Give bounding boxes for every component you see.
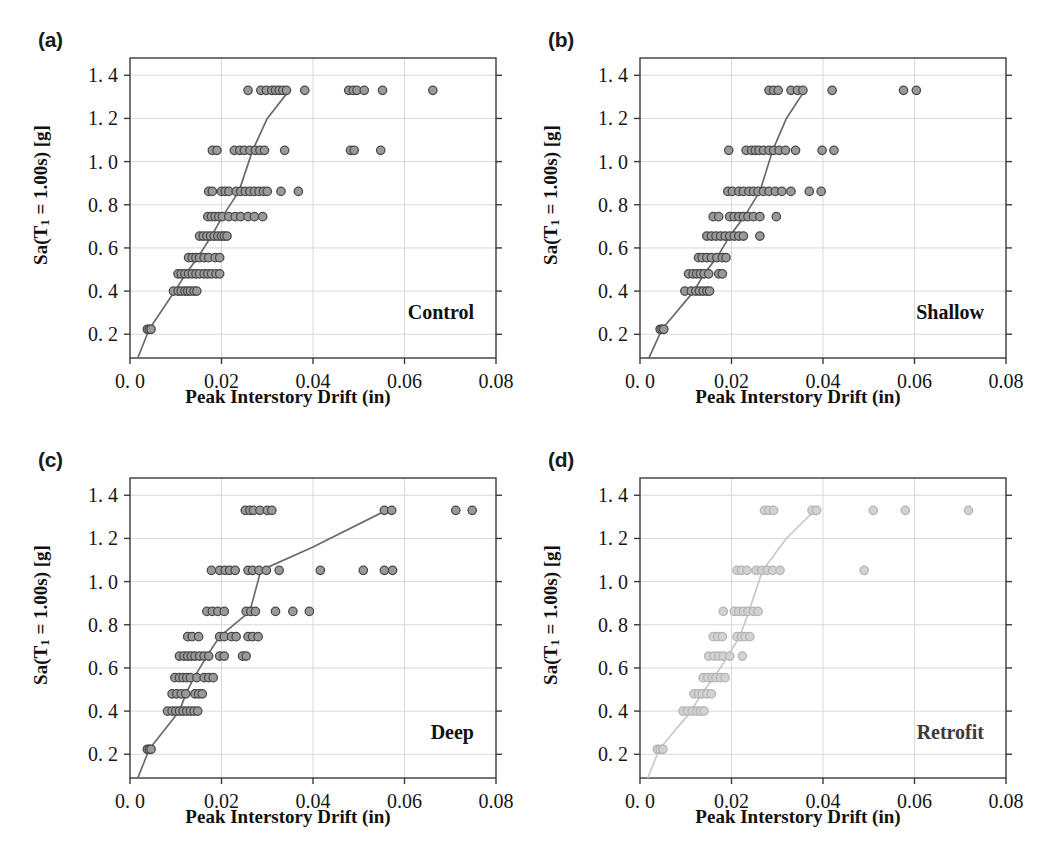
data-point [705, 287, 713, 295]
data-point [869, 506, 877, 514]
data-point [778, 187, 786, 195]
data-point [818, 146, 826, 154]
data-point [817, 187, 825, 195]
y-tick-label: 0. 4 [598, 280, 628, 302]
y-tick-label: 1. 0 [598, 571, 628, 593]
data-point [380, 566, 388, 574]
data-point [899, 86, 907, 94]
data-point [700, 707, 708, 715]
data-point [215, 253, 223, 261]
data-point [258, 212, 266, 220]
y-tick-label: 0. 4 [88, 700, 118, 722]
data-point [254, 632, 262, 640]
data-point [746, 632, 754, 640]
y-tick-label: 1. 2 [598, 527, 628, 549]
data-point [718, 270, 726, 278]
y-tick-label: 1. 0 [88, 571, 118, 593]
x-axis-title-b: Peak Interstory Drift (in) [588, 386, 1008, 408]
data-point [271, 607, 279, 615]
y-tick-label: 1. 4 [598, 64, 628, 86]
data-point [251, 607, 259, 615]
data-point [718, 632, 726, 640]
data-point [743, 566, 751, 574]
data-point [722, 253, 730, 261]
data-point [350, 146, 358, 154]
y-tick-label: 0. 2 [88, 743, 118, 765]
data-point [738, 652, 746, 660]
data-point [830, 146, 838, 154]
x-axis-title-a: Peak Interstory Drift (in) [78, 386, 498, 408]
data-point [215, 270, 223, 278]
data-point [756, 212, 764, 220]
data-point [289, 607, 297, 615]
data-point [739, 232, 747, 240]
y-tick-label: 0. 8 [598, 614, 628, 636]
data-point [263, 187, 271, 195]
data-point [719, 607, 727, 615]
data-point [901, 506, 909, 514]
y-tick-label: 0. 2 [598, 743, 628, 765]
data-point [244, 86, 252, 94]
data-point [282, 86, 290, 94]
case-label: Control [408, 301, 475, 323]
data-point [147, 325, 155, 333]
data-point [198, 690, 206, 698]
axis-ticks: 0. 20. 40. 60. 81. 01. 21. 40. 00.020.04… [598, 64, 1024, 392]
data-point [194, 632, 202, 640]
data-point [209, 673, 217, 681]
data-point [721, 673, 729, 681]
data-point [262, 566, 270, 574]
data-point [452, 506, 460, 514]
data-point [193, 287, 201, 295]
y-tick-label: 0. 6 [88, 237, 118, 259]
data-point [275, 566, 283, 574]
data-point [756, 232, 764, 240]
y-tick-label: 0. 8 [88, 614, 118, 636]
plot-area-b: 0. 20. 40. 60. 81. 01. 21. 40. 00.020.04… [528, 10, 1028, 430]
data-point [182, 690, 190, 698]
data-point [207, 566, 215, 574]
panel-a: (a) Sa(T1 = 1.00s) [g] 0. 20. 40. 60. 81… [18, 10, 518, 430]
scatter-points [653, 506, 973, 753]
y-tick-label: 1. 2 [88, 107, 118, 129]
y-tick-label: 0. 8 [598, 194, 628, 216]
data-point [660, 325, 668, 333]
y-tick-label: 1. 0 [598, 151, 628, 173]
data-point [860, 566, 868, 574]
data-point [378, 86, 386, 94]
data-point [707, 690, 715, 698]
case-label: Deep [431, 721, 474, 744]
data-point [769, 506, 777, 514]
data-point [194, 707, 202, 715]
data-point [360, 86, 368, 94]
x-axis-title-d: Peak Interstory Drift (in) [588, 806, 1008, 828]
plot-area-d: 0. 20. 40. 60. 81. 01. 21. 40. 00.020.04… [528, 430, 1028, 850]
data-point [659, 745, 667, 753]
data-point [213, 146, 221, 154]
case-label: Retrofit [917, 721, 985, 743]
scatter-points [656, 86, 921, 333]
y-tick-label: 0. 6 [598, 237, 628, 259]
data-point [799, 86, 807, 94]
data-point [805, 187, 813, 195]
data-point [294, 187, 302, 195]
data-point [305, 607, 313, 615]
data-point [704, 270, 712, 278]
data-point [714, 212, 722, 220]
y-tick-label: 0. 2 [88, 323, 118, 345]
data-point [429, 86, 437, 94]
data-point [260, 146, 268, 154]
axis-ticks: 0. 20. 40. 60. 81. 01. 21. 40. 00.020.04… [88, 484, 514, 812]
data-point [772, 212, 780, 220]
x-axis-title-c: Peak Interstory Drift (in) [78, 806, 498, 828]
scatter-points [143, 506, 476, 753]
ida-figure: (a) Sa(T1 = 1.00s) [g] 0. 20. 40. 60. 81… [0, 0, 1058, 858]
data-point [725, 652, 733, 660]
y-tick-label: 0. 8 [88, 194, 118, 216]
data-point [268, 506, 276, 514]
data-point [147, 745, 155, 753]
data-point [301, 86, 309, 94]
data-point [220, 607, 228, 615]
y-tick-label: 1. 4 [88, 484, 118, 506]
data-point [250, 212, 258, 220]
